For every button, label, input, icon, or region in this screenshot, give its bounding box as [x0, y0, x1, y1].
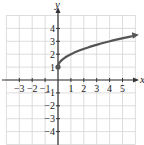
svg-text:−3: −3 — [14, 83, 25, 94]
svg-text:−2: −2 — [44, 100, 55, 111]
svg-text:−2: −2 — [27, 83, 38, 94]
function-curve — [55, 32, 138, 69]
svg-text:3: 3 — [50, 36, 55, 47]
svg-text:2: 2 — [81, 83, 86, 94]
svg-text:−3: −3 — [44, 113, 55, 124]
graph: xy −3−2−1123454321−1−2−3−4 — [0, 0, 144, 145]
svg-text:2: 2 — [50, 49, 55, 60]
svg-text:4: 4 — [107, 83, 112, 94]
svg-text:4: 4 — [50, 23, 55, 34]
svg-text:1: 1 — [68, 83, 73, 94]
x-axis-label: x — [139, 73, 144, 85]
svg-text:−1: −1 — [44, 87, 55, 98]
svg-text:3: 3 — [94, 83, 99, 94]
svg-text:−4: −4 — [44, 126, 55, 137]
svg-text:1: 1 — [50, 62, 55, 73]
svg-text:5: 5 — [120, 83, 125, 94]
y-axis-label: y — [54, 0, 60, 10]
